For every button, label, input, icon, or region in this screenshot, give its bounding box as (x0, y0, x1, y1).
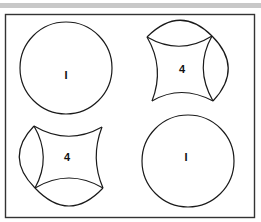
outer-arc-right (212, 36, 228, 101)
outer-arc-top (147, 20, 212, 37)
panel-bottom-right (142, 115, 234, 207)
concave-edge-top (34, 126, 102, 136)
outer-arc-left (19, 126, 35, 188)
panel-bottom-left (19, 126, 103, 206)
panel-top-right (147, 20, 228, 101)
concave-edge-left (34, 126, 43, 188)
outer-arc-bottom (35, 188, 103, 206)
circle-outline (142, 115, 234, 207)
outer-frame (6, 15, 255, 218)
label-bottom-left: 4 (64, 152, 70, 163)
concave-edge-left (147, 37, 157, 101)
label-top-right: 4 (179, 64, 185, 75)
label-bottom-right: I (184, 152, 187, 163)
concave-edge-bottom (35, 178, 103, 188)
concave-edge-top (147, 36, 212, 46)
concave-edge-bottom (152, 93, 213, 102)
diagram-canvas (0, 0, 261, 222)
label-top-left: I (64, 70, 67, 81)
concave-edge-right (96, 127, 103, 188)
concave-edge-right (203, 36, 213, 101)
